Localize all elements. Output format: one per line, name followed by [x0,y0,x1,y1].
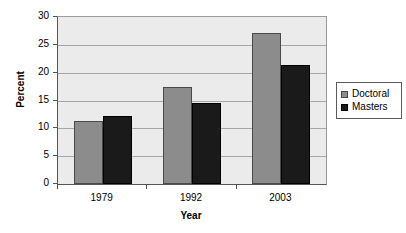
y-axis-tick-label: 25 [8,39,49,49]
bar-chart: Percent 051015202530 197919922003 Year D… [0,0,406,233]
legend-item-doctoral: Doctoral [341,88,398,100]
y-axis-tick-label: 15 [8,95,49,105]
x-axis-tick-label: 1992 [156,192,226,203]
y-axis-tick-label: 0 [8,178,49,188]
plot-area [57,16,327,185]
x-axis-tick-label: 2003 [245,192,315,203]
legend-label-masters: Masters [352,102,388,112]
y-axis-tick-label: 30 [8,11,49,21]
y-axis-title: Percent [15,50,26,130]
bar-masters-1992 [192,103,221,184]
legend-item-masters: Masters [341,101,398,113]
chart-legend: Doctoral Masters [336,82,402,119]
y-axis-tick-label: 20 [8,67,49,77]
bar-masters-1979 [103,116,132,184]
x-axis-tick-mark [57,184,58,189]
legend-swatch-doctoral-icon [341,91,348,98]
x-axis-tick-label: 1979 [67,192,137,203]
legend-label-doctoral: Doctoral [352,89,389,99]
y-axis-tick-label: 5 [8,150,49,160]
x-axis-tick-mark [146,184,147,189]
bar-masters-2003 [281,65,310,184]
legend-swatch-masters-icon [341,104,348,111]
x-axis-tick-mark [236,184,237,189]
bar-doctoral-2003 [252,33,281,184]
bar-doctoral-1979 [74,121,103,184]
bar-doctoral-1992 [163,87,192,184]
gridline [58,45,326,46]
y-axis-tick-label: 10 [8,122,49,132]
x-axis-title: Year [57,210,325,221]
